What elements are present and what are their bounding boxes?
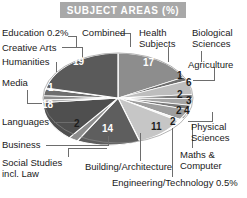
label-health-subjects: Health Subjects: [139, 28, 179, 49]
leader-physical: [188, 112, 212, 121]
value-label-health: 17: [143, 57, 154, 68]
label-humanities: Humanities: [2, 57, 50, 68]
value-label-maths-2: 2: [176, 105, 182, 116]
label-creative-arts: Creative Arts: [2, 43, 56, 54]
value-label-engineering: 2: [170, 116, 176, 127]
label-combined: Combined: [82, 28, 125, 39]
pie-slices: [43, 53, 193, 145]
pie-chart-figure: SUBJECT AREAS (%): [0, 0, 247, 198]
value-label-building: 11: [151, 121, 162, 132]
label-agriculture: Agriculture: [188, 60, 233, 71]
value-label-physical-2: 2: [177, 89, 183, 100]
value-label-business: 2: [74, 118, 80, 129]
label-building-architecture: Building/Architecture: [85, 162, 172, 173]
value-label-languages: 18: [42, 99, 53, 110]
value-label-maths-4: 4: [184, 105, 190, 116]
label-media: Media: [2, 78, 28, 89]
label-engineering: Engineering/Technology 0.5%: [112, 178, 238, 189]
label-languages: Languages: [2, 117, 49, 128]
label-physical-sciences: Physical Sciences: [191, 122, 239, 143]
label-maths-computer: Maths & Computer: [180, 150, 232, 171]
leader-social-studies: [68, 148, 107, 157]
label-biological-sciences: Biological Sciences: [192, 28, 240, 49]
value-label-combined: 19: [73, 56, 84, 67]
value-label-biological: 1: [177, 70, 183, 81]
value-label-social: 14: [102, 123, 113, 134]
label-business: Business: [2, 140, 41, 151]
value-label-media: 1: [48, 82, 54, 93]
leader-education: [68, 36, 76, 47]
label-social-studies: Social Studies incl. Law: [2, 158, 72, 179]
value-label-agriculture: 6: [186, 77, 192, 88]
label-education: Education 0.2%: [2, 28, 69, 39]
leader-media: [27, 90, 42, 103]
